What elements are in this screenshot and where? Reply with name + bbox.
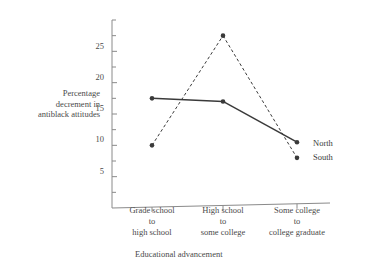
x-category-label-3: Some college to college graduate: [249, 205, 345, 238]
y-tick-label-20: 20: [82, 72, 104, 82]
y-axis-title-line-1: Percentage: [14, 88, 100, 99]
x-category-3-line-2: to: [249, 216, 345, 227]
y-axis-ticks: [112, 20, 117, 192]
series-label-north: North: [313, 138, 333, 148]
x-category-3-line-1: Some college: [249, 205, 345, 216]
x-axis-title: Educational advancement: [135, 249, 315, 259]
y-tick-label-15: 15: [82, 103, 104, 113]
x-category-3-line-3: college graduate: [249, 227, 345, 238]
series-south-line: [152, 36, 297, 158]
series-north-line: [152, 98, 297, 142]
series-markers: [150, 33, 307, 160]
series-label-south: South: [313, 152, 333, 162]
chart-figure: Percentage decrement in antiblack attitu…: [0, 0, 367, 272]
y-tick-label-10: 10: [82, 134, 104, 144]
y-tick-label-25: 25: [82, 41, 104, 51]
y-tick-label-5: 5: [82, 166, 104, 176]
